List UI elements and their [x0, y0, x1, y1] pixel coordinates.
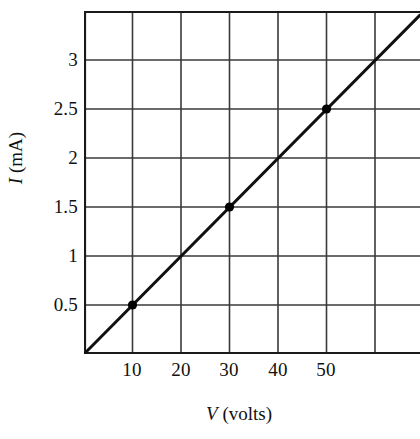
y-axis-title: I (mA) — [6, 98, 26, 218]
data-point-30-1.5 — [225, 202, 234, 211]
y-tick-label-1.5: 1.5 — [54, 197, 78, 216]
x-axis-title: V (volts) — [84, 404, 394, 424]
x-tick-label-20: 20 — [157, 360, 205, 379]
y-tick-label-3: 3 — [68, 50, 78, 69]
y-tick-label-2.5: 2.5 — [54, 99, 78, 118]
y-tick-label-2: 2 — [68, 148, 78, 167]
grid-and-data-svg — [84, 11, 420, 354]
current-voltage-chart: 3 2.5 2 1.5 1 0.5 10 20 30 40 50 I (mA) … — [0, 0, 420, 439]
y-axis-variable: I — [5, 178, 26, 184]
x-axis-unit: (volts) — [222, 403, 272, 424]
y-tick-label-0.5: 0.5 — [54, 295, 78, 314]
x-tick-label-30: 30 — [205, 360, 253, 379]
y-tick-label-1: 1 — [68, 246, 78, 265]
plot-area — [84, 11, 420, 354]
data-point-10-0.5 — [128, 300, 137, 309]
x-tick-label-10: 10 — [108, 360, 156, 379]
y-axis-unit: (mA) — [5, 132, 26, 173]
data-point-50-2.5 — [322, 104, 331, 113]
x-axis-variable: V — [206, 403, 218, 424]
x-tick-label-40: 40 — [254, 360, 302, 379]
x-tick-label-50: 50 — [302, 360, 350, 379]
